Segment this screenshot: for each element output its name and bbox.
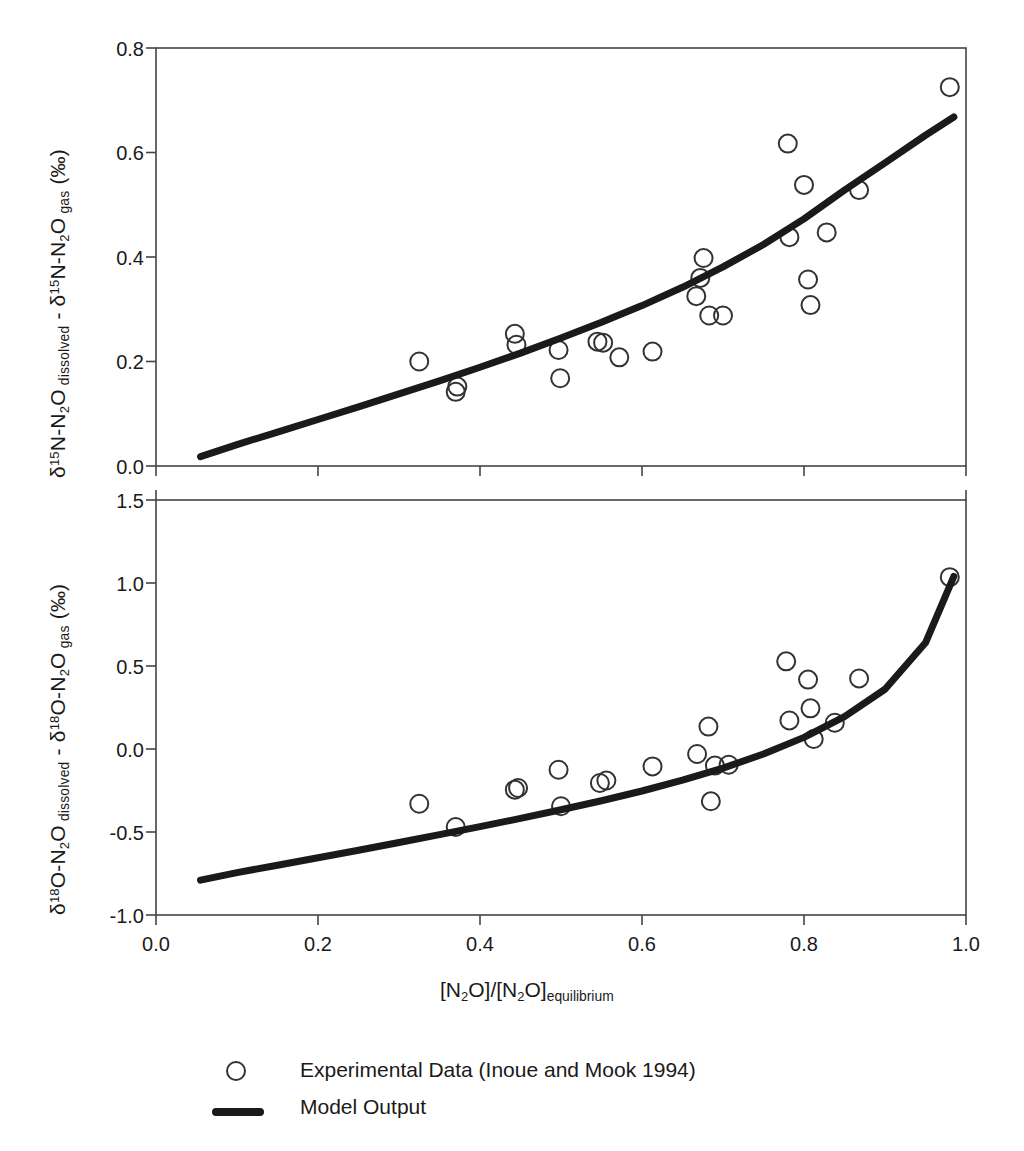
data-point-marker xyxy=(850,669,868,687)
data-point-marker xyxy=(597,772,615,790)
data-point-marker xyxy=(550,761,568,779)
bottom-panel-y-ticks xyxy=(146,500,156,915)
plot-canvas xyxy=(0,0,1024,1151)
data-point-marker xyxy=(777,652,795,670)
data-point-marker xyxy=(780,711,798,729)
data-point-marker xyxy=(610,348,628,366)
legend-label-model: Model Output xyxy=(300,1095,426,1119)
data-point-marker xyxy=(695,249,713,267)
data-point-marker xyxy=(644,757,662,775)
legend-label-experimental: Experimental Data (Inoue and Mook 1994) xyxy=(300,1058,696,1082)
series-group-top xyxy=(201,78,959,456)
experimental-data-markers xyxy=(410,568,959,836)
data-point-marker xyxy=(941,78,959,96)
data-series-layer xyxy=(201,78,959,880)
data-point-marker xyxy=(551,369,569,387)
data-point-marker xyxy=(818,223,836,241)
figure-root: δ15N-N2O dissolved - δ15N-N2O gas (‰) δ1… xyxy=(0,0,1024,1151)
bottom-panel-frame xyxy=(156,500,966,915)
data-point-marker xyxy=(699,718,717,736)
data-point-marker xyxy=(801,699,819,717)
data-point-marker xyxy=(799,671,817,689)
legend-open-circle-icon xyxy=(227,1062,245,1080)
top-panel-y-ticks xyxy=(146,48,156,466)
model-output-curve xyxy=(201,117,954,457)
data-point-marker xyxy=(714,307,732,325)
data-point-marker xyxy=(687,287,705,305)
legend-thick-line-icon xyxy=(212,1108,264,1116)
bottom-panel-top-ticks xyxy=(156,490,966,500)
data-point-marker xyxy=(801,296,819,314)
top-panel-x-ticks xyxy=(156,466,966,476)
data-point-marker xyxy=(795,176,813,194)
data-point-marker xyxy=(702,792,720,810)
data-point-marker xyxy=(410,353,428,371)
data-point-marker xyxy=(799,270,817,288)
series-group-bottom xyxy=(201,568,959,880)
data-point-marker xyxy=(410,795,428,813)
bottom-panel-x-ticks xyxy=(156,915,966,925)
data-point-marker xyxy=(779,135,797,153)
data-point-marker xyxy=(644,343,662,361)
data-point-marker xyxy=(688,745,706,763)
top-panel-frame xyxy=(156,48,966,466)
experimental-data-markers xyxy=(410,78,959,401)
